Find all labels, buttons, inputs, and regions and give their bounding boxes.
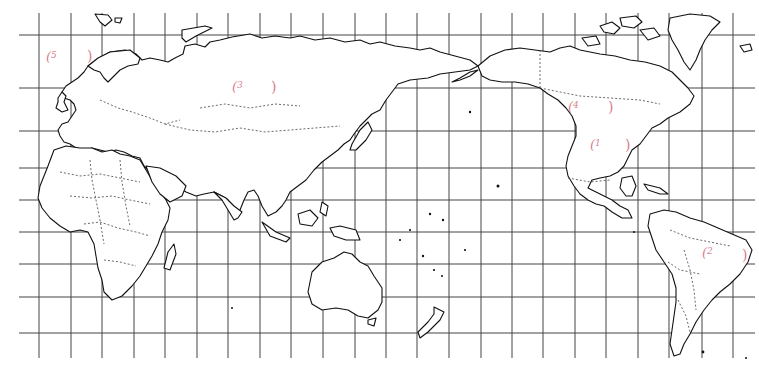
map-label-3: (3 (232, 80, 243, 93)
map-label-4: (4 (568, 100, 579, 113)
map-label-5: (5 (46, 50, 57, 63)
label-number: 4 (573, 100, 579, 110)
australia (308, 252, 382, 318)
landmasses (38, 14, 752, 356)
label-number: 3 (237, 80, 243, 90)
world-map (0, 0, 759, 365)
greenland-west-fragment (95, 14, 112, 26)
map-label-1: (1 (590, 138, 601, 151)
greenland (668, 14, 720, 70)
label-number: 1 (595, 138, 601, 148)
map-label-5-close: ) (87, 49, 92, 63)
label-number: 2 (707, 246, 713, 256)
map-label-4-close: ) (608, 100, 613, 114)
map-label-2: (2 (702, 246, 713, 259)
map-label-2-close: ) (742, 248, 747, 262)
map-label-3-close: ) (271, 80, 276, 94)
label-number: 5 (51, 50, 57, 60)
map-label-1-close: ) (625, 138, 630, 152)
